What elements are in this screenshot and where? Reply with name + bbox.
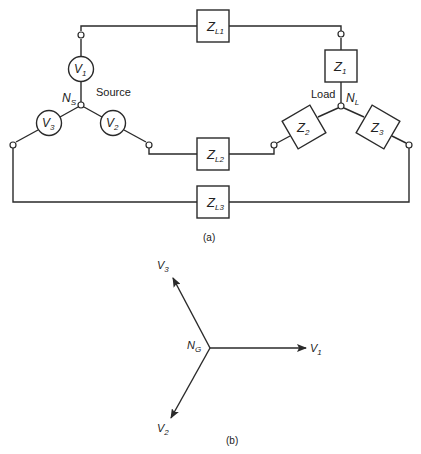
load-terminal-2 bbox=[271, 142, 277, 148]
phasor-v2-label: V2 bbox=[157, 422, 169, 437]
source-terminal-1 bbox=[78, 32, 84, 38]
line-impedance-zl3: ZL3 bbox=[197, 186, 229, 218]
load-wye: Z1 Z2 Z3 Load NL bbox=[271, 31, 412, 149]
phasor-v3-label: V3 bbox=[157, 259, 169, 274]
source-wye: V1 V3 V2 NS Source bbox=[10, 32, 152, 148]
phasor-diagram: NG V1 V3 V2 (b) bbox=[157, 259, 322, 446]
load-label: Load bbox=[311, 88, 335, 100]
three-phase-circuit-figure: ZL1 ZL2 ZL3 V1 V3 bbox=[0, 0, 421, 454]
load-neutral-node bbox=[338, 103, 344, 109]
load-terminal-3 bbox=[406, 142, 412, 148]
source-label: Source bbox=[96, 86, 131, 98]
origin-label: NG bbox=[187, 339, 201, 354]
source-terminal-2 bbox=[146, 142, 152, 148]
circuit-diagram: ZL1 ZL2 ZL3 V1 V3 bbox=[10, 10, 412, 243]
load-terminal-1 bbox=[338, 31, 344, 37]
source-neutral-label: NS bbox=[62, 91, 77, 107]
source-terminal-3 bbox=[10, 142, 16, 148]
line-impedance-zl1: ZL1 bbox=[197, 10, 229, 42]
load-impedance-z1: Z1 bbox=[325, 50, 357, 82]
source-neutral-node bbox=[78, 102, 84, 108]
phasor-v1-label: V1 bbox=[310, 342, 322, 357]
phasor-v2-arrow bbox=[171, 348, 210, 418]
voltage-source-v2: V2 bbox=[101, 111, 126, 136]
caption-b: (b) bbox=[226, 435, 238, 446]
voltage-source-v3: V3 bbox=[37, 111, 62, 136]
caption-a: (a) bbox=[203, 232, 215, 243]
phasor-v3-arrow bbox=[173, 278, 210, 348]
line-impedance-zl2: ZL2 bbox=[197, 138, 229, 170]
voltage-source-v1: V1 bbox=[69, 57, 94, 82]
load-neutral-label: NL bbox=[346, 91, 359, 107]
